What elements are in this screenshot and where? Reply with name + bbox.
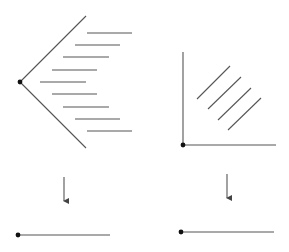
diagonal-line (218, 88, 251, 120)
upper-ray-line (20, 16, 86, 82)
left-panel (16, 16, 132, 237)
origin-dot (181, 143, 186, 148)
right-panel (179, 52, 276, 234)
diagram-svg (0, 0, 289, 252)
segment-endpoint-dot (16, 233, 21, 238)
diagonal-line (228, 98, 261, 130)
segment-endpoint-dot (179, 230, 184, 235)
lower-ray-line (20, 82, 86, 148)
diagram-canvas (0, 0, 289, 252)
diagonal-line (197, 66, 230, 99)
apex-dot (18, 80, 23, 85)
diagonal-line (208, 77, 241, 109)
